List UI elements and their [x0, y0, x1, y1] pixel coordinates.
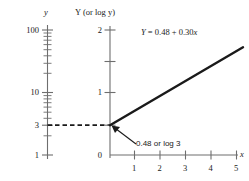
equation-variable: x — [194, 27, 198, 37]
annotation-arrow — [112, 126, 137, 145]
y-axis-title: Y (or log y) — [75, 8, 115, 17]
left-log-axis — [42, 25, 53, 159]
x-axis-label-3: 3 — [183, 164, 187, 173]
figure-canvas: y 100 10 3 1 Y (or log y) 2 1 0 1 2 3 4 … — [0, 0, 249, 181]
left-axis-label-1: 1 — [8, 151, 39, 160]
y-axis-label-1: 1 — [84, 88, 102, 97]
x-axis — [110, 151, 238, 160]
left-axis-title: y — [44, 8, 48, 17]
x-axis-title: x — [240, 150, 244, 159]
left-axis-label-100: 100 — [8, 26, 39, 35]
x-axis-label-4: 4 — [209, 164, 213, 173]
intercept-annotation-label: 0.48 or log 3 — [136, 140, 180, 148]
x-axis-label-5: 5 — [234, 164, 238, 173]
equation-rhs: = 0.48 + 0.30 — [146, 27, 194, 37]
left-axis-label-3: 3 — [8, 121, 39, 130]
y-axis — [105, 26, 116, 158]
equation-label: Y = 0.48 + 0.30x — [141, 28, 197, 37]
regression-line — [110, 47, 243, 125]
y-axis-label-2: 2 — [84, 26, 102, 35]
y-axis-label-0: 0 — [84, 151, 102, 160]
x-axis-label-2: 2 — [158, 164, 162, 173]
left-axis-label-10: 10 — [8, 88, 39, 97]
x-axis-label-1: 1 — [132, 164, 136, 173]
